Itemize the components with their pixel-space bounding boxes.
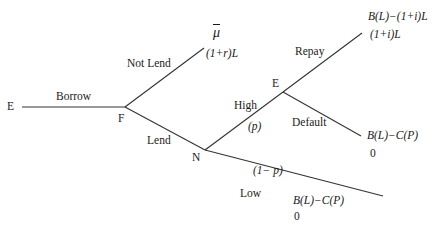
payoff-default-entrepreneur: B(L)−C(P)	[367, 130, 418, 142]
edge-repay	[283, 33, 362, 92]
payoff-not-lend-lender: (1+r)L	[206, 48, 238, 60]
edge-default-label: Default	[292, 117, 326, 129]
edge-high-label: High	[234, 100, 257, 112]
edge-borrow-label: Borrow	[56, 91, 91, 103]
payoff-default-lender: 0	[370, 148, 376, 160]
node-root-label: E	[7, 101, 14, 113]
edge-default	[283, 92, 361, 136]
overline	[213, 24, 220, 25]
edge-low-probability: (1− p)	[253, 165, 283, 177]
edge-not-lend-label: Not Lend	[127, 58, 171, 70]
node-lender-label: F	[118, 113, 124, 125]
payoff-low-lender: 0	[294, 211, 300, 223]
edge-lend-label: Lend	[147, 135, 171, 147]
payoff-repay-entrepreneur: B(L)−(1+i)L	[368, 11, 428, 23]
payoff-not-lend-line1: μ	[213, 25, 220, 40]
edge-low-label: Low	[240, 188, 261, 200]
edge-repay-label: Repay	[295, 46, 324, 58]
edge-low	[205, 150, 383, 196]
node-entrepreneur-label: E	[272, 78, 279, 90]
node-nature-label: N	[192, 152, 200, 164]
payoff-repay-lender: (1+i)L	[370, 29, 401, 41]
payoff-low-entrepreneur: B(L)−C(P)	[293, 195, 344, 207]
edge-high-probability: (p)	[248, 121, 261, 133]
payoff-not-lend-entrepreneur: μ	[213, 26, 220, 40]
